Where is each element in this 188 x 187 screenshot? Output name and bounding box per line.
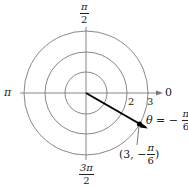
frac-num: π (147, 143, 156, 155)
radius-label-3: 3 (147, 97, 153, 107)
frac-num: π (80, 2, 89, 14)
frac-den: 6 (183, 121, 188, 132)
frac-num: 3π (79, 163, 94, 175)
point-label-suffix: ) (155, 148, 159, 161)
frac-den: 2 (83, 175, 89, 186)
frac-den: 2 (81, 14, 87, 25)
point-label: (3, −π6) (119, 143, 159, 166)
theta-label: θ = − π6 (146, 109, 188, 132)
angle-label-3pi-over-2: 3π2 (79, 163, 94, 186)
ray-theta (86, 93, 146, 128)
angle-label-pi: π (4, 87, 11, 98)
polar-grid (0, 0, 188, 187)
angle-label-zero: 0 (165, 87, 172, 98)
point-marker (137, 121, 142, 126)
axis-arrow-icon (156, 91, 163, 96)
frac-num: π (182, 109, 188, 121)
frac-den: 6 (148, 155, 154, 166)
point-label-prefix: (3, − (119, 148, 147, 161)
radius-label-2: 2 (128, 97, 134, 107)
angle-label-pi-over-2: π2 (80, 2, 89, 25)
theta-text: θ = − (146, 114, 178, 127)
